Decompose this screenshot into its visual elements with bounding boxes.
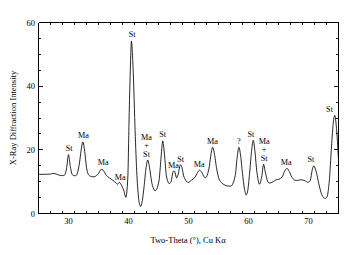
peak-label: St — [247, 130, 255, 139]
y-axis-ticks — [39, 23, 339, 214]
plot-frame — [39, 23, 339, 214]
x-tick-label: 60 — [244, 216, 253, 226]
peak-label: Ma+St — [141, 133, 152, 158]
peak-label-line: St — [143, 150, 151, 159]
y-axis-label: X-Ray Diffraction Intensity — [8, 70, 18, 165]
y-axis-tick-labels: 0204060 — [27, 18, 36, 219]
peak-label-line: St — [177, 155, 185, 164]
peak-label-line: St — [261, 154, 269, 163]
peak-label-line: St — [129, 30, 137, 39]
x-tick-label: 70 — [304, 216, 313, 226]
peak-annotation-labels: StMaMaMaStMa+StStMaStMaMa?StMa+StMaStSt — [66, 30, 334, 181]
peak-label: St — [326, 105, 334, 114]
x-axis-label: Two-Theta (°), Cu Kα — [150, 235, 226, 245]
xrd-data-trace — [39, 41, 339, 207]
x-tick-label: 40 — [124, 216, 133, 226]
peak-label-line: Ma — [98, 158, 109, 167]
peak-label: Ma — [78, 131, 89, 140]
x-tick-label: 30 — [64, 216, 73, 226]
x-axis-ticks — [39, 23, 339, 214]
peak-label-line: St — [307, 155, 315, 164]
peak-label-line: ? — [237, 137, 241, 146]
peak-label: Ma — [207, 137, 218, 146]
y-tick-label: 40 — [27, 81, 36, 91]
peak-label-line: Ma — [78, 131, 89, 140]
y-tick-label: 0 — [31, 209, 35, 219]
peak-label: St — [177, 155, 185, 164]
peak-label-line: St — [66, 144, 74, 153]
peak-label-line: Ma — [194, 160, 205, 169]
peak-label-line: Ma — [115, 173, 126, 182]
peak-label: St — [159, 130, 167, 139]
chart-canvas: 3040506070 0204060 Two-Theta (°), Cu Kα … — [0, 0, 349, 255]
x-tick-label: 50 — [184, 216, 193, 226]
peak-label-line: St — [159, 130, 167, 139]
peak-label: Ma — [194, 160, 205, 169]
peak-label-line: Ma — [207, 137, 218, 146]
y-tick-label: 20 — [27, 145, 36, 155]
peak-label: Ma — [98, 158, 109, 167]
peak-label-line: St — [326, 105, 334, 114]
xrd-chart-figure: 3040506070 0204060 Two-Theta (°), Cu Kα … — [0, 0, 349, 255]
peak-label: ? — [237, 137, 241, 146]
peak-label: St — [307, 155, 315, 164]
peak-label-line: St — [247, 130, 255, 139]
x-axis-tick-labels: 3040506070 — [64, 216, 313, 226]
peak-label: Ma+St — [259, 137, 270, 162]
peak-label: St — [129, 30, 137, 39]
peak-label-line: Ma — [281, 158, 292, 167]
peak-label: Ma — [281, 158, 292, 167]
y-tick-label: 60 — [27, 18, 36, 28]
peak-label: Ma — [115, 173, 126, 182]
peak-label: St — [66, 144, 74, 153]
